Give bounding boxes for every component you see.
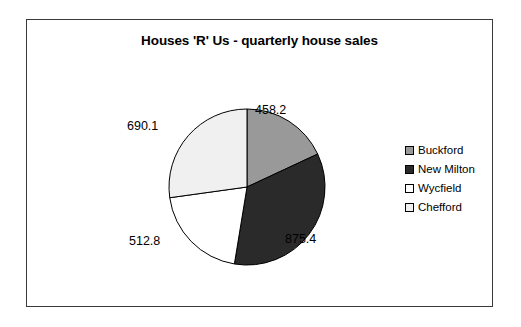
legend-label-buckford: Buckford xyxy=(418,145,463,157)
data-label-new-milton: 875.4 xyxy=(285,232,316,246)
legend-label-wycfield: Wycfield xyxy=(418,183,461,195)
legend-item-new-milton[interactable]: New Milton xyxy=(405,160,495,179)
legend-item-wycfield[interactable]: Wycfield xyxy=(405,179,495,198)
legend-swatch-buckford xyxy=(405,146,414,155)
legend-swatch-wycfield xyxy=(405,184,414,193)
data-label-buckford: 458.2 xyxy=(255,103,286,117)
legend-label-chefford: Chefford xyxy=(418,202,462,214)
legend-swatch-new-milton xyxy=(405,165,414,174)
chart-legend: Buckford New Milton Wycfield Chefford xyxy=(405,141,495,217)
legend-item-buckford[interactable]: Buckford xyxy=(405,141,495,160)
data-label-wycfield: 512.8 xyxy=(129,234,160,248)
legend-swatch-chefford xyxy=(405,203,414,212)
pie-slice-chefford[interactable] xyxy=(169,109,247,198)
pie-slice-wycfield[interactable] xyxy=(170,187,247,264)
legend-item-chefford[interactable]: Chefford xyxy=(405,198,495,217)
chart-frame: Houses 'R' Us - quarterly house sales 45… xyxy=(26,19,493,307)
data-label-chefford: 690.1 xyxy=(127,119,158,133)
legend-label-new-milton: New Milton xyxy=(418,164,475,176)
